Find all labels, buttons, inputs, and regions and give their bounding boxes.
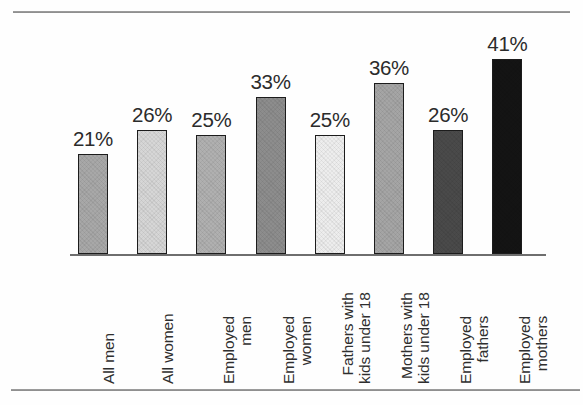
- bar-value-label: 36%: [353, 56, 425, 80]
- x-axis-tick-label: All women: [137, 258, 167, 386]
- bar[interactable]: [433, 130, 463, 254]
- bar[interactable]: [78, 154, 108, 254]
- x-axis-tick-label-line: All women: [159, 313, 176, 384]
- bar[interactable]: [315, 135, 345, 254]
- bar-value-label: 41%: [471, 32, 543, 56]
- plot-area: 21%26%25%33%25%36%26%41%: [70, 20, 546, 260]
- bar[interactable]: [196, 135, 226, 254]
- bar[interactable]: [256, 97, 286, 254]
- bar-value-label: 25%: [175, 108, 247, 132]
- x-axis-tick-label-line: women: [297, 316, 314, 384]
- x-axis-tick-label-line: All men: [100, 333, 117, 384]
- x-axis-tick-label: Employedfathers: [433, 258, 463, 386]
- x-axis-tick-label-line: Employed: [220, 316, 237, 384]
- x-axis-tick-label: Mothers withkids under 18: [374, 258, 404, 386]
- x-axis-tick-label: Employedmothers: [492, 258, 522, 386]
- x-axis-tick-label-line: fathers: [474, 316, 491, 384]
- x-axis-tick-label: All men: [78, 258, 108, 386]
- x-axis-tick-label-line: mothers: [533, 316, 550, 384]
- x-axis-tick-label-line: kids under 18: [356, 292, 373, 384]
- x-axis-tick-label-line: Mothers with: [398, 292, 415, 384]
- bar-value-label: 21%: [57, 127, 129, 151]
- top-divider-rule: [13, 11, 570, 13]
- bar-value-label: 33%: [235, 70, 307, 94]
- bottom-divider-rule: [11, 389, 580, 391]
- x-axis-tick-label-line: Employed: [280, 316, 297, 384]
- x-axis-tick-label: Employedmen: [196, 258, 226, 386]
- x-axis-tick-label-line: Employed: [516, 316, 533, 384]
- x-axis-tick-label-line: men: [237, 316, 254, 384]
- x-axis-tick-label-line: kids under 18: [415, 292, 432, 384]
- bar-value-label: 26%: [412, 103, 484, 127]
- x-axis-tick-label-line: Fathers with: [339, 292, 356, 384]
- x-axis-line: [70, 254, 546, 256]
- bar[interactable]: [374, 83, 404, 254]
- bar[interactable]: [492, 59, 522, 254]
- x-axis-tick-label-line: Employed: [457, 316, 474, 384]
- bar-chart-figure: 21%26%25%33%25%36%26%41% All menAll wome…: [0, 0, 583, 405]
- bar[interactable]: [137, 130, 167, 254]
- x-axis-category-labels: All menAll womenEmployedmenEmployedwomen…: [70, 258, 546, 386]
- x-axis-tick-label: Fathers withkids under 18: [315, 258, 345, 386]
- bar-value-label: 25%: [294, 108, 366, 132]
- x-axis-tick-label: Employedwomen: [256, 258, 286, 386]
